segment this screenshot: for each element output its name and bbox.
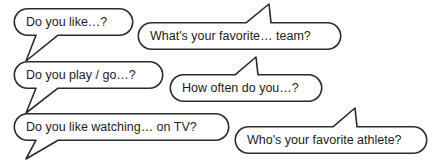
bubble-favorite-athlete-label: Who's your favorite athlete? xyxy=(247,133,402,147)
bubble-favorite-team-label: What's your favorite… team? xyxy=(150,29,311,43)
bubble-play-go-label: Do you play / go…? xyxy=(26,68,136,82)
bubble-favorite-athlete[interactable]: Who's your favorite athlete? xyxy=(235,108,426,153)
bubble-do-you-like[interactable]: Do you like…? xyxy=(14,9,132,61)
bubble-favorite-team[interactable]: What's your favorite… team? xyxy=(138,4,340,49)
bubble-watching-tv-label: Do you like watching… on TV? xyxy=(26,120,197,134)
bubble-play-go[interactable]: Do you play / go…? xyxy=(14,62,162,113)
bubble-watching-tv[interactable]: Do you like watching… on TV? xyxy=(14,114,228,159)
bubble-how-often[interactable]: How often do you…? xyxy=(170,57,321,101)
bubble-do-you-like-label: Do you like…? xyxy=(26,15,107,29)
bubble-canvas: Do you like…? What's your favorite… team… xyxy=(0,0,434,163)
speech-bubble-diagram: Do you like…? What's your favorite… team… xyxy=(0,0,434,163)
bubble-how-often-label: How often do you…? xyxy=(182,81,299,95)
